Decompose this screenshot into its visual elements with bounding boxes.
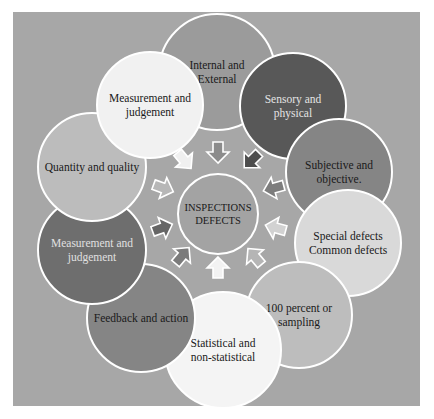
node-label-line: Measurement and [51,237,133,249]
node-label-line: 100 percent or [266,302,333,315]
center-node: INSPECTIONSDEFECTS [178,174,258,254]
node-label-line: Common defects [309,244,388,256]
node-label-line: Internal and [189,59,244,71]
node-label-line: judgement [67,251,117,264]
node-label-line: sampling [278,316,320,329]
node-label-line: Sensory and [265,93,322,106]
node-label-line: objective. [316,173,361,186]
node-label-line: Measurement and [109,92,191,104]
node-measurement-judgement-light: Measurement andjudgement [97,52,203,158]
node-label-line: INSPECTIONS [184,202,251,213]
node-label-line: non-statistical [191,351,256,363]
node-label-line: DEFECTS [195,215,241,226]
node-label-line: Quantity and quality [45,161,140,174]
node-label-line: External [198,73,237,85]
node-label-line: Feedback and action [94,312,189,324]
diagram-canvas: Internal andExternalSensory andphysicalS… [0,0,434,419]
node-label-line: physical [274,107,312,120]
node-label-line: judgement [125,106,175,119]
node-label-line: Special defects [313,230,383,243]
inspection-defects-diagram: Internal andExternalSensory andphysicalS… [0,0,434,419]
node-label-line: Subjective and [305,159,373,172]
node-label-line: Statistical and [191,337,256,349]
